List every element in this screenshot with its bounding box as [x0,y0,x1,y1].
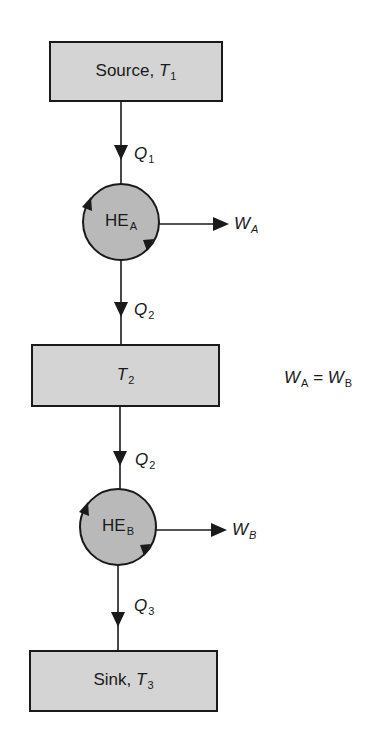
work-b-subscript: B [249,529,256,541]
arrow-down-icon [111,612,125,627]
arrow-down-icon [113,451,127,466]
sink-label: Sink, T3 [30,671,217,688]
engine-b-name: HE [102,516,126,535]
q2-upper-subscript: 2 [148,309,154,321]
condition-operator: = [313,368,323,387]
engine-a-subscript: A [130,220,137,232]
source-label: Source, T1 [50,62,222,79]
heat-q1-label: Q1 [134,145,154,162]
q1-subscript: 1 [148,153,154,165]
heat-q2-lower-label: Q2 [135,451,155,468]
middle-reservoir-label: T2 [32,366,219,383]
source-temp-subscript: 1 [170,70,176,82]
sink-name: Sink, [93,670,131,689]
condition-rhs-symbol: W [328,368,344,387]
heat-engine-diagram: Source, T1 Q1 HEA WA Q2 T2 WA = WB Q2 HE… [0,0,384,752]
heat-q2-upper-label: Q2 [134,301,154,318]
engine-b-label: HEB [80,517,156,534]
arrow-down-icon [114,302,128,317]
source-name: Source, [96,61,155,80]
condition-lhs-symbol: W [284,368,300,387]
q2-lower-symbol: Q [135,450,148,469]
condition-rhs-subscript: B [345,377,352,389]
work-a-symbol: W [234,214,250,233]
engine-a-label: HEA [83,212,159,229]
q2-lower-subscript: 2 [149,459,155,471]
q2-upper-symbol: Q [134,300,147,319]
work-equality-condition: WA = WB [284,369,352,386]
arrow-right-icon [211,523,227,537]
middle-temp-subscript: 2 [128,374,134,386]
engine-b-subscript: B [127,525,134,537]
work-a-label: WA [234,215,258,232]
source-temp-symbol: T [159,61,169,80]
work-b-symbol: W [232,520,248,539]
q1-symbol: Q [134,144,147,163]
arrow-right-icon [213,217,229,231]
q3-symbol: Q [134,596,147,615]
cycle-arrow-icon [79,502,89,516]
q3-subscript: 3 [148,605,154,617]
sink-temp-subscript: 3 [147,679,153,691]
condition-lhs-subscript: A [301,377,308,389]
middle-temp-symbol: T [117,365,127,384]
engine-a-name: HE [105,211,129,230]
work-b-label: WB [232,521,256,538]
heat-q3-label: Q3 [134,597,154,614]
arrow-down-icon [114,145,128,160]
cycle-arrow-icon [82,197,92,211]
work-a-subscript: A [251,223,258,235]
sink-temp-symbol: T [136,670,146,689]
